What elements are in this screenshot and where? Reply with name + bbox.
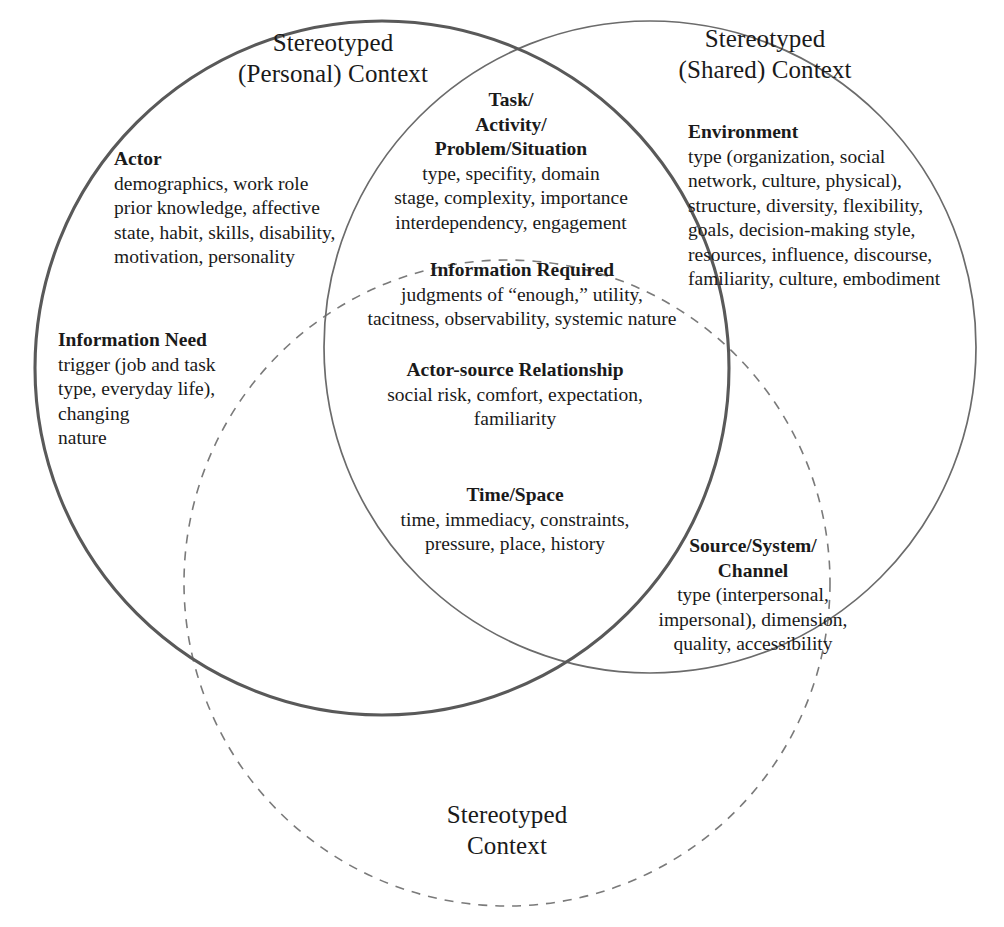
title-shared-context: Stereotyped (Shared) Context [600, 24, 930, 85]
venn-diagram-canvas: Stereotyped (Personal) Context Stereotyp… [0, 0, 1004, 927]
block-time-space: Time/Space time, immediacy, constraints,… [370, 483, 660, 557]
block-task-activity-problem-situation: Task/ Activity/ Problem/Situation type, … [368, 88, 654, 235]
block-information-need: Information Need trigger (job and task t… [58, 328, 308, 451]
block-information-required: Information Required judgments of “enoug… [322, 258, 722, 332]
title-personal-context: Stereotyped (Personal) Context [168, 28, 498, 89]
title-stereotyped-context: Stereotyped Context [382, 800, 632, 861]
block-actor: Actor demographics, work role prior know… [114, 147, 404, 270]
block-environment: Environment type (organization, social n… [688, 120, 988, 292]
block-actor-source-relationship: Actor-source Relationship social risk, c… [344, 358, 686, 432]
block-source-system-channel: Source/System/ Channel type (interperson… [630, 534, 876, 657]
